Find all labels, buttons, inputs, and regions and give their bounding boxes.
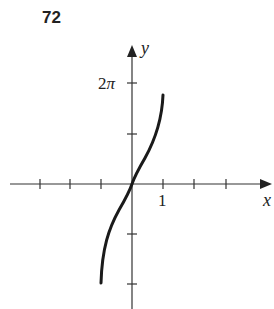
graph: y x 1 2π — [0, 0, 274, 309]
y-axis-arrow-icon — [127, 45, 137, 57]
y-tick-label-2pi: 2π — [98, 74, 116, 93]
x-axis-label: x — [262, 190, 271, 210]
x-tick-label-1: 1 — [158, 191, 167, 210]
x-axis-arrow-icon — [260, 179, 272, 189]
y-axis-label: y — [139, 38, 149, 58]
